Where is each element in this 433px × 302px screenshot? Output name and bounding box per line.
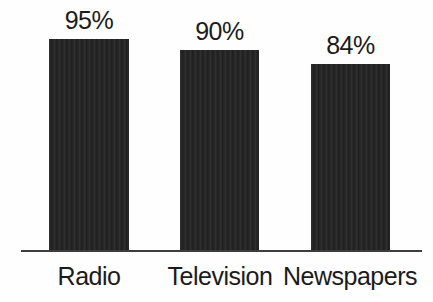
bar-value-label-radio: 95% xyxy=(65,8,114,33)
bar-group-television: 90% xyxy=(180,19,259,252)
bar-chart: 95% 90% 84% Radio Television Newspapers xyxy=(0,0,433,302)
bar-value-label-television: 90% xyxy=(195,19,244,44)
bar-value-label-newspapers: 84% xyxy=(326,33,375,58)
bar-television xyxy=(180,50,259,252)
bar-group-radio: 95% xyxy=(49,8,129,252)
bar-newspapers xyxy=(311,64,390,252)
bar-radio xyxy=(49,39,129,252)
bar-group-newspapers: 84% xyxy=(311,33,390,252)
category-label-newspapers: Newspapers xyxy=(270,261,430,291)
x-axis-line xyxy=(21,250,422,252)
